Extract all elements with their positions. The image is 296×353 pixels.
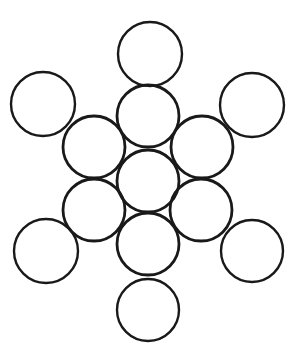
- canvas-background: [0, 0, 296, 353]
- circle-packing-diagram: [0, 0, 296, 353]
- figure-canvas: [0, 0, 296, 353]
